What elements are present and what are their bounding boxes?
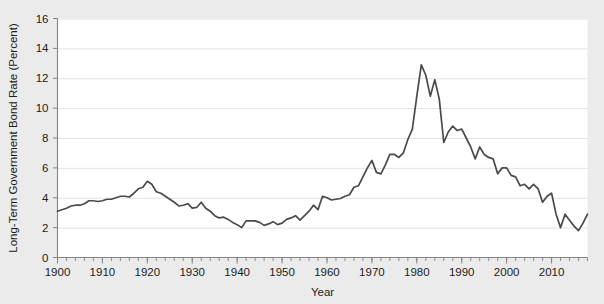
x-tick-label: 1900: [45, 266, 71, 278]
y-tick-label: 10: [36, 102, 49, 114]
x-tick-label: 1940: [224, 266, 250, 278]
x-tick-label: 1970: [359, 266, 385, 278]
x-axis-title: Year: [311, 286, 334, 298]
y-tick-label: 16: [36, 13, 49, 25]
x-tick-label: 2000: [494, 266, 520, 278]
y-tick-label: 8: [42, 132, 48, 144]
x-tick-label: 1980: [404, 266, 430, 278]
x-tick-label: 1910: [90, 266, 116, 278]
x-tick-label: 1920: [135, 266, 161, 278]
y-tick-label: 12: [36, 72, 49, 84]
x-tick-label: 2010: [539, 266, 565, 278]
y-tick-label: 0: [42, 252, 48, 264]
x-tick-label: 1990: [449, 266, 475, 278]
chart-container: 0246810121416 19001910192019301940195019…: [0, 0, 604, 304]
x-tick-label: 1950: [269, 266, 295, 278]
y-axis-title: Long-Term Government Bond Rate (Percent): [7, 23, 19, 253]
bond-rate-line-chart: 0246810121416 19001910192019301940195019…: [0, 0, 604, 304]
x-tick-label: 1930: [179, 266, 205, 278]
y-tick-label: 6: [42, 162, 48, 174]
y-tick-label: 4: [42, 192, 49, 204]
x-tick-label: 1960: [314, 266, 340, 278]
y-tick-label: 14: [36, 42, 49, 54]
y-tick-label: 2: [42, 222, 48, 234]
